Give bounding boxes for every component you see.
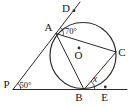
diagram-canvas: P A B C D E O 70° 50° x — [0, 0, 128, 108]
label-O: O — [75, 49, 83, 61]
diagram-labels: P A B C D E O 70° 50° x — [3, 2, 125, 104]
label-A: A — [45, 21, 53, 33]
geometry-diagram: P A B C D E O 70° 50° x — [0, 0, 128, 108]
angle-label-x: x — [92, 74, 98, 84]
label-D: D — [62, 2, 70, 14]
angle-label-50: 50° — [20, 80, 32, 90]
point-D-dot — [73, 9, 76, 12]
point-E-dot — [104, 86, 107, 89]
label-B: B — [75, 91, 82, 103]
label-E: E — [101, 91, 108, 103]
chord-AC — [56, 34, 116, 53]
label-P: P — [3, 78, 9, 90]
angle-label-70: 70° — [65, 26, 77, 36]
circle-O — [50, 23, 116, 89]
tangent-line-PAD — [13, 2, 80, 90]
label-C: C — [118, 46, 125, 58]
diagram-strokes — [13, 2, 127, 90]
chord-AB — [56, 34, 84, 90]
